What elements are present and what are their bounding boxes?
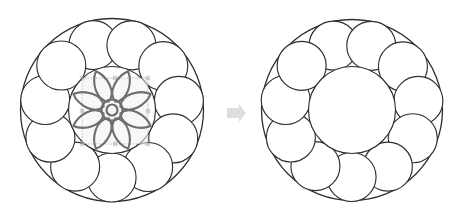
selection-handle[interactable] [146, 109, 150, 113]
right-arrow-icon [227, 104, 246, 122]
selection-handle[interactable] [113, 142, 117, 146]
panel-before [21, 19, 204, 203]
selection-handle[interactable] [146, 142, 150, 146]
selection-handle[interactable] [146, 76, 150, 80]
selection-handle[interactable] [80, 109, 84, 113]
diagram-canvas [0, 0, 457, 220]
circle-packing-diagram [0, 0, 457, 220]
panel-after [261, 20, 443, 202]
inner-boundary-circle [309, 67, 396, 154]
selection-handle[interactable] [80, 142, 84, 146]
transform-arrow [227, 104, 246, 122]
selection-handle[interactable] [80, 76, 84, 80]
